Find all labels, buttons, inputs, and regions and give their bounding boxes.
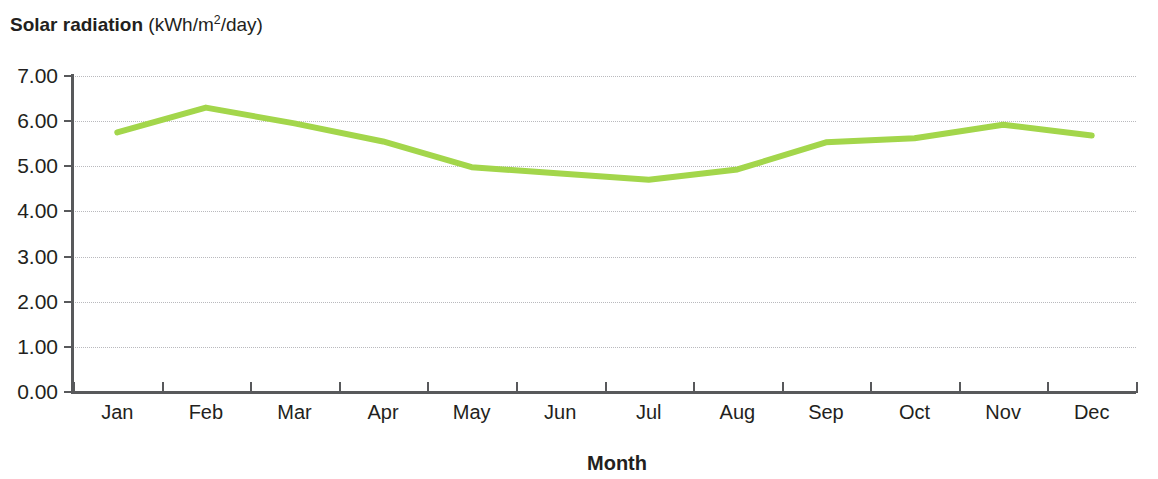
y-axis-tick-label: 1.00 (0, 336, 58, 357)
x-axis-tick-label-nov: Nov (959, 400, 1048, 424)
x-axis-tick (1047, 382, 1049, 393)
x-axis-tick-label-may: May (427, 400, 516, 424)
y-axis-tick (64, 120, 74, 122)
x-axis-tick (693, 382, 695, 393)
gridline (73, 76, 1136, 77)
y-axis-tick (64, 165, 74, 167)
chart-title-main: Solar radiation (10, 14, 143, 35)
x-axis-tick-label-sep: Sep (782, 400, 871, 424)
x-axis-tick-label-oct: Oct (870, 400, 959, 424)
x-axis-tick-label-apr: Apr (339, 400, 428, 424)
chart-title-unit-suffix: /day) (221, 14, 263, 35)
y-axis-tick-label: 6.00 (0, 110, 58, 131)
x-axis-tick (250, 382, 252, 393)
y-axis-tick (64, 256, 74, 258)
x-axis-tick-label-dec: Dec (1047, 400, 1136, 424)
chart-title-unit-exponent: 2 (214, 13, 221, 27)
x-axis-tick (427, 382, 429, 393)
y-axis-tick-label: 3.00 (0, 246, 58, 267)
y-axis-tick-label: 4.00 (0, 200, 58, 221)
y-axis-tick (64, 301, 74, 303)
y-axis-tick-label: 0.00 (0, 381, 58, 402)
gridline (73, 257, 1136, 258)
x-axis-tick-label-feb: Feb (162, 400, 251, 424)
gridline (73, 211, 1136, 212)
x-axis-tick-label-mar: Mar (250, 400, 339, 424)
series-line-solar-radiation (117, 108, 1091, 180)
x-axis-tick (959, 382, 961, 393)
x-axis-tick (516, 382, 518, 393)
y-axis-tick (64, 210, 74, 212)
gridline (73, 166, 1136, 167)
y-axis-tick-label: 2.00 (0, 291, 58, 312)
x-axis-tick (870, 382, 872, 393)
y-axis-tick (64, 75, 74, 77)
gridline (73, 302, 1136, 303)
gridline (73, 121, 1136, 122)
chart-title-unit-prefix: (kWh/m (143, 14, 214, 35)
y-axis-tick-label: 7.00 (0, 65, 58, 86)
x-axis-tick (782, 382, 784, 393)
x-axis-tick (162, 382, 164, 393)
x-axis-title: Month (0, 452, 1158, 475)
x-axis-tick-label-jan: Jan (73, 400, 162, 424)
x-axis-tick-label-aug: Aug (693, 400, 782, 424)
y-axis-tick-label: 5.00 (0, 155, 58, 176)
x-axis-tick (339, 382, 341, 393)
x-axis-tick (73, 382, 75, 393)
x-axis-tick-label-jul: Jul (605, 400, 694, 424)
x-axis-tick (605, 382, 607, 393)
x-axis-tick (1136, 382, 1138, 393)
gridline (73, 347, 1136, 348)
chart-page: Solar radiation (kWh/m2/day) 0.001.002.0… (0, 0, 1158, 479)
y-axis-tick (64, 346, 74, 348)
chart-title: Solar radiation (kWh/m2/day) (10, 13, 263, 37)
x-axis-title-label: Month (587, 452, 647, 475)
x-axis-line (71, 391, 1136, 394)
x-axis-tick-label-jun: Jun (516, 400, 605, 424)
